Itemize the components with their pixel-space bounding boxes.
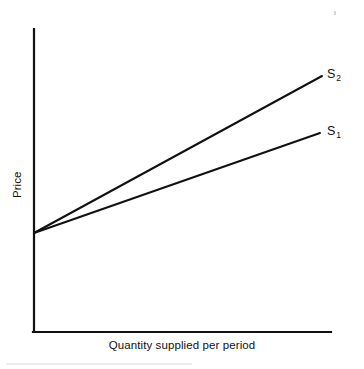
supply-curve-figure: Price Quantity supplied per period S2 S1 xyxy=(0,0,364,369)
y-axis-label: Price xyxy=(0,160,34,210)
scan-artifact-smudge xyxy=(6,363,192,365)
scan-artifact-speck xyxy=(334,11,336,15)
series-label-s1-subscript: 1 xyxy=(336,130,341,140)
x-axis-label: Quantity supplied per period xyxy=(0,340,364,352)
series-label-s2-subscript: 2 xyxy=(336,73,341,83)
series-label-s1-letter: S xyxy=(327,124,335,138)
supply-curve-s1 xyxy=(34,133,320,233)
series-label-s1: S1 xyxy=(327,125,340,138)
supply-curve-s2 xyxy=(34,76,322,233)
series-label-s2-letter: S xyxy=(327,67,335,81)
series-label-s2: S2 xyxy=(327,68,340,81)
plot-canvas xyxy=(0,0,364,369)
y-axis-label-text: Price xyxy=(11,172,23,199)
